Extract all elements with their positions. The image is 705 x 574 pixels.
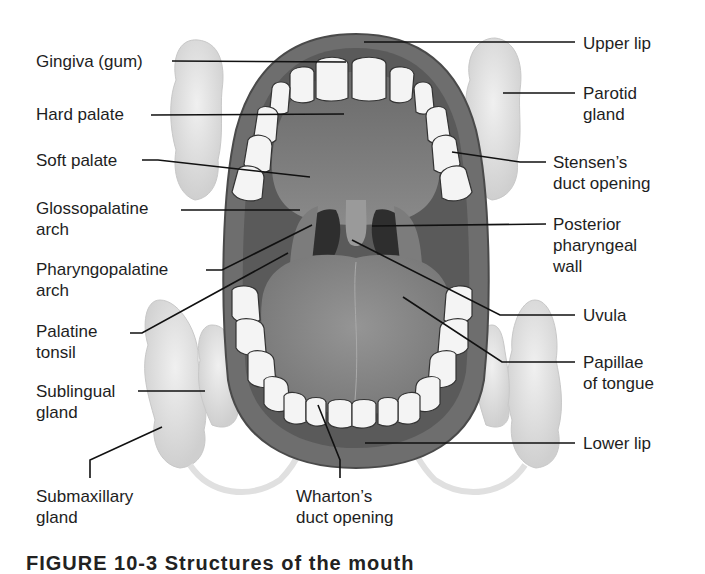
figure-caption: FIGURE 10-3 Structures of the mouth [26,552,414,574]
parotid-gland-left [171,40,223,200]
label-papillae-of-tongue: Papillae of tongue [583,352,654,394]
label-parotid-gland: Parotid gland [583,83,637,125]
submaxillary-gland-left [145,300,206,468]
label-upper-lip: Upper lip [583,33,651,54]
label-pharyngopalatine-arch: Pharyngopalatine arch [36,259,168,301]
uvula [346,200,367,246]
label-lower-lip: Lower lip [583,433,651,454]
label-uvula: Uvula [583,305,626,326]
label-whartons-duct-opening: Wharton’s duct opening [296,486,393,528]
label-posterior-pharyngeal-wall: Posterior pharyngeal wall [553,214,637,277]
label-glossopalatine-arch: Glossopalatine arch [36,198,148,240]
label-gingiva: Gingiva (gum) [36,51,143,72]
label-hard-palate: Hard palate [36,104,124,125]
label-palatine-tonsil: Palatine tonsil [36,321,97,363]
label-soft-palate: Soft palate [36,150,117,171]
label-sublingual-gland: Sublingual gland [36,381,115,423]
label-submaxillary-gland: Submaxillary gland [36,486,133,528]
label-stensens-duct-opening: Stensen’s duct opening [553,152,650,194]
